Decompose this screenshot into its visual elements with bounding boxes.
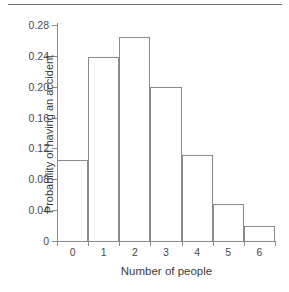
x-tick-boundary bbox=[244, 241, 245, 246]
x-tick-label: 4 bbox=[182, 247, 213, 258]
x-tick-label: 6 bbox=[244, 247, 275, 258]
x-axis-title: Number of people bbox=[57, 265, 276, 278]
x-tick-boundary bbox=[150, 241, 151, 246]
bar bbox=[88, 57, 119, 241]
x-tick-label: 1 bbox=[88, 247, 119, 258]
bar bbox=[119, 37, 150, 241]
bar bbox=[57, 160, 88, 241]
x-tick-label: 2 bbox=[119, 247, 150, 258]
histogram-figure: 0.28 0.24 0.20 0.16 0.12 0.08 0.04 0 0 1… bbox=[0, 0, 289, 292]
x-tick-boundary bbox=[275, 241, 276, 246]
x-tick-boundary bbox=[88, 241, 89, 246]
y-axis-title: Probability of having an accident bbox=[43, 19, 55, 249]
bar bbox=[244, 226, 275, 241]
x-tick-boundary bbox=[213, 241, 214, 246]
y-axis-title-wrap: Probability of having an accident bbox=[22, 20, 36, 240]
x-tick-boundary bbox=[119, 241, 120, 246]
x-tick-label: 0 bbox=[57, 247, 88, 258]
bar bbox=[150, 87, 181, 241]
x-tick-boundary bbox=[57, 241, 58, 246]
bar bbox=[182, 155, 213, 241]
x-tick-label: 3 bbox=[150, 247, 181, 258]
x-tick-boundary bbox=[182, 241, 183, 246]
bar bbox=[213, 204, 244, 241]
x-tick-label: 5 bbox=[213, 247, 244, 258]
